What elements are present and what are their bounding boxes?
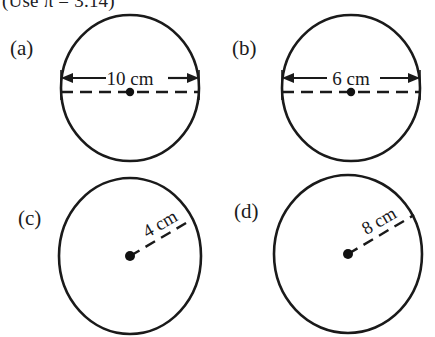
circle-group-c: 4 cm (59, 178, 201, 334)
radius-label-c: 4 cm (139, 206, 181, 242)
circle-group-b: 6 cm (282, 15, 420, 161)
center-dot-d (343, 249, 353, 259)
circle-group-d: 8 cm (274, 175, 422, 333)
dimension-label-a: 10 cm (107, 68, 154, 89)
center-dot-b (347, 88, 355, 96)
geometry-figure: (Use π = 3.14) (a) (b) (c) (d) 10 cm (0, 0, 435, 337)
figure-canvas: 10 cm 6 cm 4 cm (0, 0, 435, 337)
circle-group-a: 10 cm (61, 15, 199, 161)
radius-label-d: 8 cm (358, 203, 400, 239)
dimension-label-b: 6 cm (332, 68, 370, 89)
center-dot-a (126, 88, 134, 96)
center-dot-c (125, 251, 135, 261)
